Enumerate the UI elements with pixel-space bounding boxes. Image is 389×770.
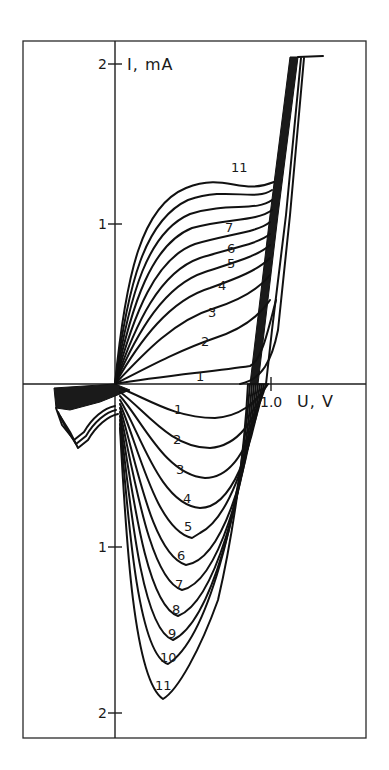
cathodic-label-11: 11 <box>155 678 172 693</box>
anodic-label-6: 6 <box>227 241 235 256</box>
anodic-steep-band <box>250 57 298 384</box>
cathodic-label-1: 1 <box>174 402 182 417</box>
cathodic-label-5: 5 <box>184 519 192 534</box>
anodic-curve-8 <box>115 210 272 384</box>
cathodic-label-3: 3 <box>176 462 184 477</box>
cathodic-left-band <box>54 384 130 410</box>
anodic-curve-3 <box>115 275 270 384</box>
xtick-label-1: 1.0 <box>260 394 282 410</box>
cathodic-curves <box>120 384 268 699</box>
ytick-label-dn-1: 1 <box>98 539 107 555</box>
anodic-curve-6 <box>115 234 270 384</box>
cathodic-label-8: 8 <box>172 602 180 617</box>
anodic-plateau-line <box>298 56 323 57</box>
cathodic-label-2: 2 <box>173 432 181 447</box>
anodic-label-7: 7 <box>225 220 233 235</box>
cathodic-label-9: 9 <box>168 626 176 641</box>
cathodic-left-hooks <box>56 406 118 448</box>
chart-svg: 2 1 1 2 1.0 I, mA U, V <box>0 0 389 770</box>
cathodic-label-7: 7 <box>175 577 183 592</box>
cathodic-curve-11 <box>120 384 248 699</box>
anodic-curves <box>115 182 276 384</box>
ytick-label-up-2: 2 <box>98 56 107 72</box>
anodic-label-5: 5 <box>227 256 235 271</box>
anodic-label-1: 1 <box>196 369 204 384</box>
ytick-label-up-1: 1 <box>98 216 107 232</box>
anodic-label-2: 2 <box>201 334 209 349</box>
cathodic-label-6: 6 <box>177 548 185 563</box>
ytick-label-dn-2: 2 <box>98 705 107 721</box>
cathodic-label-10: 10 <box>160 650 177 665</box>
cathodic-curve-5 <box>120 384 260 538</box>
anodic-label-11: 11 <box>231 160 248 175</box>
anodic-label-4: 4 <box>218 278 226 293</box>
cathodic-curve-labels: 1 2 3 4 5 6 7 8 9 10 11 <box>155 402 192 693</box>
cathodic-label-4: 4 <box>183 491 191 506</box>
y-axis-label: I, mA <box>127 55 173 74</box>
x-axis-label: U, V <box>297 392 334 411</box>
chart-figure: 2 1 1 2 1.0 I, mA U, V <box>0 0 389 770</box>
anodic-label-3: 3 <box>208 305 216 320</box>
